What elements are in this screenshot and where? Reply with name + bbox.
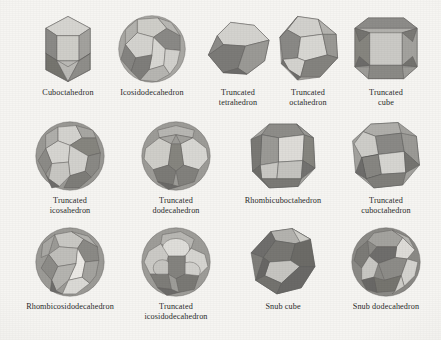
solid-label: Truncated dodecahedron: [152, 196, 199, 215]
solid-cell-cuboctahedron: Cuboctahedron: [24, 12, 112, 98]
rhombicosidodecahedron-icon: [31, 224, 109, 300]
truncated-cube-icon: [349, 12, 423, 86]
solid-label: Rhombicuboctahedron: [245, 196, 321, 206]
archimedean-solids-plate: Cuboctahedron Icosidodecahedron: [0, 0, 441, 340]
solid-cell-rhombicuboctahedron: Rhombicuboctahedron: [228, 118, 338, 206]
solid-cell-truncated-dodecahedron: Truncated dodecahedron: [132, 118, 220, 215]
solid-cell-truncated-icosidodecahedron: Truncated icosidodecahedron: [134, 224, 218, 321]
solid-label: Truncated cube: [369, 88, 403, 107]
solid-cell-icosidodecahedron: Icosidodecahedron: [110, 12, 194, 98]
truncated-icosidodecahedron-icon: [137, 224, 215, 300]
solid-label: Truncated cuboctahedron: [361, 196, 411, 215]
truncated-icosahedron-icon: [30, 118, 110, 194]
solid-label: Rhombicosidodecahedron: [26, 302, 114, 312]
solid-cell-snub-cube: Snub cube: [244, 224, 322, 312]
solid-label: Snub cube: [265, 302, 300, 312]
solid-label: Truncated octahedron: [289, 88, 326, 107]
solid-label: Truncated icosidodecahedron: [144, 302, 207, 321]
truncated-octahedron-icon: [270, 12, 346, 86]
solid-cell-truncated-octahedron: Truncated octahedron: [270, 12, 346, 107]
solid-label: Cuboctahedron: [42, 88, 93, 98]
solid-cell-truncated-cuboctahedron: Truncated cuboctahedron: [344, 118, 428, 215]
solid-cell-truncated-cube: Truncated cube: [348, 12, 424, 107]
icosidodecahedron-icon: [112, 12, 192, 86]
solid-cell-truncated-tetrahedron: Truncated tetrahedron: [196, 12, 280, 107]
truncated-tetrahedron-icon: [197, 12, 279, 86]
solid-label: Snub dodecahedron: [353, 302, 420, 312]
snub-cube-icon: [244, 224, 322, 300]
cuboctahedron-icon: [29, 12, 107, 86]
rhombicuboctahedron-icon: [244, 118, 322, 194]
solid-label: Truncated icosahedron: [50, 196, 91, 215]
snub-dodecahedron-icon: [347, 224, 425, 300]
solid-cell-truncated-icosahedron: Truncated icosahedron: [26, 118, 114, 215]
solid-cell-rhombicosidodecahedron: Rhombicosidodecahedron: [16, 224, 124, 312]
solid-label: Truncated tetrahedron: [219, 88, 257, 107]
solid-label: Icosidodecahedron: [120, 88, 184, 98]
solid-cell-snub-dodecahedron: Snub dodecahedron: [338, 224, 434, 312]
truncated-dodecahedron-icon: [136, 118, 216, 194]
truncated-cuboctahedron-icon: [347, 118, 425, 194]
